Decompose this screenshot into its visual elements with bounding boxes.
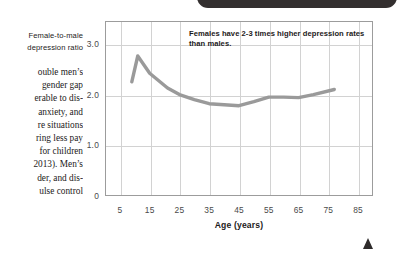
data-line [132,56,334,106]
x-tick-label: 65 [294,205,304,215]
x-tick-label: 25 [175,205,185,215]
x-axis-label: Age (years) [105,220,373,230]
y-tick-label: 0 [94,191,99,201]
body-text-line: der, and dis- [0,172,83,185]
x-tick-label: 85 [353,205,363,215]
body-paragraph: ouble men’sgender gaperable to dis-anxie… [0,66,83,198]
x-tick-label: 35 [204,205,214,215]
y-axis-title-line-1: Female-to-male [0,30,83,42]
body-text-line: ring less pay [0,132,83,145]
body-text-line: ouble men’s [0,66,83,79]
body-text-line: re situations [0,119,83,132]
body-text-line: erable to dis- [0,92,83,105]
x-tick-label: 15 [145,205,155,215]
y-axis-title-line-2: depression ratio [0,42,83,54]
text-column: Female-to-male depression ratio ouble me… [0,30,83,198]
top-banner [197,0,397,8]
y-tick-label: 2.0 [87,90,99,100]
x-tick-label: 45 [234,205,244,215]
y-tick-label: 1.0 [87,140,99,150]
line-chart: Females have 2-3 times higher depression… [105,21,373,196]
corner-triangle-marker [363,238,373,249]
y-tick-label: 3.0 [87,39,99,49]
y-axis-title: Female-to-male depression ratio [0,30,83,53]
body-text-line: gender gap [0,79,83,92]
body-text-line: anxiety, and [0,106,83,119]
x-tick-label: 5 [117,205,122,215]
body-text-line: ulse control [0,185,83,198]
body-text-line: 2013). Men’s [0,158,83,171]
chart-annotation: Females have 2-3 times higher depression… [189,29,367,50]
x-tick-label: 75 [323,205,333,215]
x-tick-label: 55 [264,205,274,215]
body-text-line: for children [0,145,83,158]
